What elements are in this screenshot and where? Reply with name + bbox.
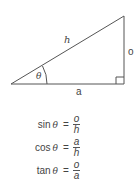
sin-label: sin <box>38 119 51 130</box>
denominator: h <box>73 148 81 158</box>
theta-symbol: θ <box>53 166 58 176</box>
angle-arc <box>43 66 48 84</box>
theta-symbol: θ <box>53 120 58 130</box>
fraction: o a <box>73 160 81 181</box>
tangent-formula: tanθ = o a <box>24 158 88 182</box>
fraction: o h <box>73 114 81 135</box>
equals-sign: = <box>63 142 69 153</box>
right-angle-marker <box>116 77 124 84</box>
tan-label: tan <box>37 165 51 176</box>
adjacent-label: a <box>76 87 82 97</box>
angle-label: θ <box>36 72 41 81</box>
denominator: a <box>73 171 81 181</box>
equals-sign: = <box>63 165 69 176</box>
hypotenuse-label: h <box>64 35 70 45</box>
cos-label: cos <box>35 142 51 153</box>
function-name: sinθ <box>24 119 60 130</box>
function-name: cosθ <box>24 142 60 153</box>
cosine-formula: cosθ = a h <box>24 135 88 159</box>
numerator: a <box>73 137 81 148</box>
theta-symbol: θ <box>53 143 58 153</box>
triangle-shape <box>11 16 124 84</box>
equals-sign: = <box>63 119 69 130</box>
fraction: a h <box>73 137 81 158</box>
sine-formula: sinθ = o h <box>24 112 88 136</box>
opposite-label: o <box>128 47 134 57</box>
numerator: o <box>73 160 81 171</box>
denominator: h <box>73 125 81 135</box>
function-name: tanθ <box>24 165 60 176</box>
right-triangle <box>0 0 138 100</box>
numerator: o <box>73 114 81 125</box>
